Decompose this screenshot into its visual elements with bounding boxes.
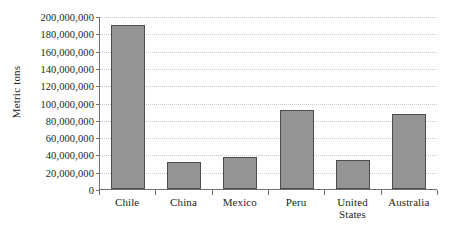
x-axis-tick-label: China: [155, 196, 211, 220]
bar-slot: [325, 17, 381, 189]
x-axis-tick-label-line: States: [324, 208, 380, 220]
x-axis-tick-label: Peru: [268, 196, 324, 220]
x-axis-tick-label: Chile: [99, 196, 155, 220]
x-axis-tick-mark: [99, 190, 100, 195]
x-axis-tick-label-line: China: [155, 196, 211, 208]
x-axis-tick-mark: [324, 190, 325, 195]
y-axis-tick-label: 140,000,000: [18, 63, 94, 74]
x-axis-tick-label-line: United: [324, 196, 380, 208]
y-axis-tick-label: 120,000,000: [18, 81, 94, 92]
bar-chart: Metric tons 020,000,00040,000,00060,000,…: [0, 0, 451, 228]
bar-slot: [100, 17, 156, 189]
bar-mexico[interactable]: [223, 157, 257, 189]
y-axis-tick-label: 160,000,000: [18, 46, 94, 57]
bar-series: [100, 17, 437, 189]
bar-slot: [381, 17, 437, 189]
bar-united-states[interactable]: [336, 160, 370, 189]
y-axis-tick-labels: 020,000,00040,000,00060,000,00080,000,00…: [18, 17, 94, 190]
x-axis-tick-label-line: Australia: [381, 196, 437, 208]
bar-china[interactable]: [167, 162, 201, 189]
x-axis-tick-label: Mexico: [212, 196, 268, 220]
x-axis-tick-labels: ChileChinaMexicoPeruUnitedStatesAustrali…: [99, 196, 437, 220]
bar-slot: [156, 17, 212, 189]
x-axis-tick-label-line: Peru: [268, 196, 324, 208]
x-axis-tick-label-line: Chile: [99, 196, 155, 208]
y-axis-tick-label: 180,000,000: [18, 29, 94, 40]
y-axis-tick-label: 40,000,000: [18, 150, 94, 161]
plot-area: [99, 17, 437, 190]
x-axis-tick-mark: [437, 190, 438, 195]
x-axis-tick-mark: [268, 190, 269, 195]
x-axis-tick-marks: [99, 190, 437, 195]
y-axis-tick-label: 100,000,000: [18, 98, 94, 109]
bar-australia[interactable]: [392, 114, 426, 189]
y-axis-tick-label: 200,000,000: [18, 12, 94, 23]
bar-slot: [269, 17, 325, 189]
x-axis-tick-mark: [381, 190, 382, 195]
x-axis-tick-label-line: Mexico: [212, 196, 268, 208]
y-axis-tick-label: 20,000,000: [18, 167, 94, 178]
x-axis-tick-mark: [212, 190, 213, 195]
bar-chile[interactable]: [111, 25, 145, 189]
y-axis-tick-label: 0: [18, 185, 94, 196]
bar-slot: [212, 17, 268, 189]
x-axis-tick-label: UnitedStates: [324, 196, 380, 220]
x-axis-tick-mark: [155, 190, 156, 195]
y-axis-tick-label: 60,000,000: [18, 133, 94, 144]
x-axis-tick-label: Australia: [381, 196, 437, 220]
y-axis-tick-label: 80,000,000: [18, 115, 94, 126]
bar-peru[interactable]: [280, 110, 314, 189]
